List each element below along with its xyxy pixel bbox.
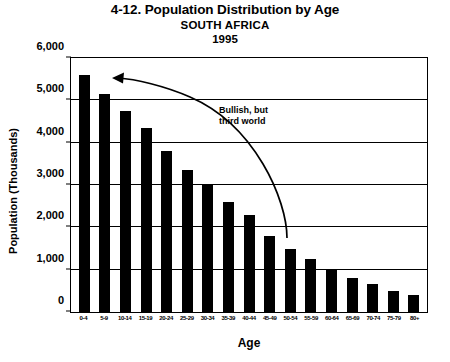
bar <box>347 278 358 312</box>
x-tick-label: 75-79 <box>384 315 405 321</box>
x-tick-label: 45-49 <box>259 315 280 321</box>
bar-slot <box>362 58 383 312</box>
annotation-line-2: third world <box>219 116 268 127</box>
bar <box>99 94 110 312</box>
x-tick-label: 15-19 <box>135 315 156 321</box>
bar <box>285 249 296 313</box>
x-tick-label: 55-59 <box>301 315 322 321</box>
chart-title: 4-12. Population Distribution by Age <box>0 2 450 18</box>
bar <box>367 284 378 312</box>
x-tick-label: 30-34 <box>197 315 218 321</box>
bar-slot <box>74 58 95 312</box>
bar-slot <box>301 58 322 312</box>
bar <box>182 170 193 312</box>
chart-figure: 4-12. Population Distribution by Age SOU… <box>0 0 450 362</box>
bar-slot <box>136 58 157 312</box>
x-tick-label: 40-44 <box>239 315 260 321</box>
x-tick-label: 80+ <box>404 315 425 321</box>
bar <box>408 295 419 312</box>
y-tick-label: 4,000 <box>36 125 71 137</box>
annotation-text: Bullish, but third world <box>219 105 268 127</box>
y-tick-label: 5,000 <box>36 82 71 94</box>
x-tick-label: 50-54 <box>280 315 301 321</box>
annotation-line-1: Bullish, but <box>219 105 268 116</box>
bar <box>161 151 172 312</box>
bar-series <box>71 58 427 312</box>
bar-slot <box>156 58 177 312</box>
chart-subtitle: SOUTH AFRICA <box>0 18 450 32</box>
x-tick-label: 35-39 <box>218 315 239 321</box>
bar-slot <box>239 58 260 312</box>
x-axis-label: Age <box>70 336 428 350</box>
bar <box>244 215 255 312</box>
bar <box>79 75 90 312</box>
bar-slot <box>280 58 301 312</box>
bar-slot <box>198 58 219 312</box>
x-tick-label: 70-74 <box>363 315 384 321</box>
bar-slot <box>342 58 363 312</box>
bar <box>388 291 399 312</box>
plot-area: 6,0005,0004,0003,0002,0001,0000 Populati… <box>70 57 428 313</box>
bar-slot <box>177 58 198 312</box>
y-tick-label: 0 <box>58 294 71 306</box>
x-tick-label: 65-69 <box>342 315 363 321</box>
y-tick-label: 3,000 <box>36 167 71 179</box>
x-tick-label: 0-4 <box>73 315 94 321</box>
bar <box>202 185 213 312</box>
y-tick-label: 1,000 <box>36 252 71 264</box>
x-axis-ticks: 0-45-910-1415-1920-2425-2930-3435-3940-4… <box>70 315 428 321</box>
bar-slot <box>218 58 239 312</box>
y-tick-label: 6,000 <box>36 40 71 52</box>
bar-slot <box>259 58 280 312</box>
bar <box>305 259 316 312</box>
bar-slot <box>95 58 116 312</box>
y-tick-label: 2,000 <box>36 209 71 221</box>
x-tick-label: 10-14 <box>114 315 135 321</box>
bar-slot <box>404 58 425 312</box>
x-tick-label: 20-24 <box>156 315 177 321</box>
bar <box>223 202 234 312</box>
x-tick-label: 60-64 <box>321 315 342 321</box>
bar <box>326 270 337 312</box>
y-axis-label: Population (Thousands) <box>7 96 19 286</box>
bar <box>141 128 152 312</box>
bar <box>120 111 131 312</box>
x-tick-label: 25-29 <box>177 315 198 321</box>
bar <box>264 236 275 312</box>
bar-slot <box>115 58 136 312</box>
bar-slot <box>321 58 342 312</box>
bar-slot <box>383 58 404 312</box>
x-tick-label: 5-9 <box>94 315 115 321</box>
